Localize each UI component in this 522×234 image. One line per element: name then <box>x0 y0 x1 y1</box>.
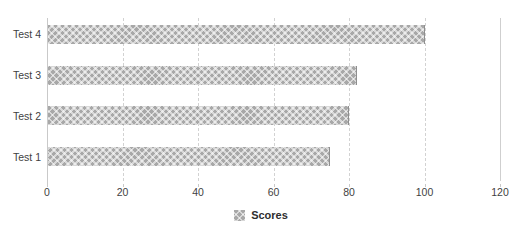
bar-test-1[interactable] <box>47 147 330 166</box>
chart-legend: Scores <box>0 209 522 221</box>
y-tick-label-test-4: Test 4 <box>1 28 41 40</box>
x-tick-mark-100 <box>425 184 426 187</box>
bar-chart: Test 4Test 3Test 2Test 1 020406080100120… <box>0 0 522 234</box>
x-tick-label-0: 0 <box>44 186 50 198</box>
x-tick-label-20: 20 <box>117 186 129 198</box>
x-tick-label-100: 100 <box>416 186 434 198</box>
x-tick-mark-120 <box>500 184 501 187</box>
x-tick-mark-20 <box>123 184 124 187</box>
legend-label-scores: Scores <box>251 209 288 221</box>
x-tick-mark-0 <box>47 184 48 187</box>
bar-row <box>47 147 500 166</box>
bar-test-4[interactable] <box>47 25 425 44</box>
bar-row <box>47 25 500 44</box>
y-axis-labels: Test 4Test 3Test 2Test 1 <box>0 18 41 181</box>
x-tick-label-40: 40 <box>192 186 204 198</box>
bar-row <box>47 106 500 125</box>
y-axis-line <box>47 18 48 184</box>
plot-area <box>47 18 500 181</box>
legend-swatch-scores <box>234 210 245 221</box>
x-tick-label-60: 60 <box>268 186 280 198</box>
x-tick-mark-40 <box>198 184 199 187</box>
y-tick-label-test-2: Test 2 <box>1 110 41 122</box>
y-tick-label-test-1: Test 1 <box>1 151 41 163</box>
x-tick-mark-60 <box>274 184 275 187</box>
x-tick-label-120: 120 <box>491 186 509 198</box>
y-tick-label-test-3: Test 3 <box>1 69 41 81</box>
bar-test-3[interactable] <box>47 66 357 85</box>
bar-test-2[interactable] <box>47 106 349 125</box>
x-axis-labels: 020406080100120 <box>47 186 500 202</box>
bar-row <box>47 66 500 85</box>
x-tick-mark-80 <box>349 184 350 187</box>
x-tick-label-80: 80 <box>343 186 355 198</box>
gridline-120 <box>500 18 502 181</box>
